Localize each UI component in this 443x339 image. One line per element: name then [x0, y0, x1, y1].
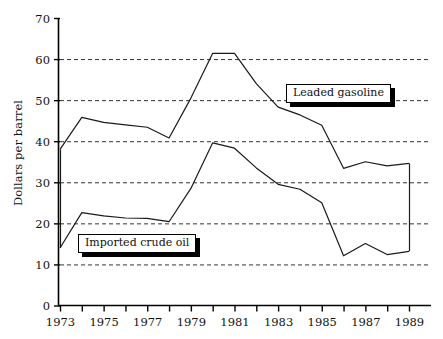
x-tick-label-1973: 1973: [46, 315, 75, 329]
x-tick-label-1985: 1985: [308, 315, 337, 329]
y-tick-label-20: 20: [35, 217, 50, 231]
annotation-leaded-gasoline-label: Leaded gasoline: [286, 84, 391, 103]
y-tick-label-70: 70: [35, 12, 50, 26]
annotation-imported-crude-oil-label: Imported crude oil: [78, 234, 196, 253]
y-tick-label-60: 60: [35, 53, 50, 67]
axes-group: [59, 18, 432, 306]
x-tick-label-1983: 1983: [264, 315, 293, 329]
annotation-imported-crude-oil: Imported crude oil: [78, 234, 196, 253]
y-tick-group: 010203040506070: [35, 12, 60, 314]
y-tick-label-50: 50: [35, 94, 50, 108]
x-tick-label-1979: 1979: [177, 315, 206, 329]
x-tick-label-1975: 1975: [89, 315, 118, 329]
series-line-0: [60, 53, 409, 168]
chart-container: 010203040506070 197319751977197919811983…: [0, 0, 443, 339]
x-tick-label-1987: 1987: [351, 315, 380, 329]
y-tick-label-10: 10: [35, 258, 50, 272]
x-tick-group: 197319751977197919811983198519871989: [46, 306, 424, 329]
x-tick-label-1977: 1977: [133, 315, 162, 329]
y-tick-label-30: 30: [35, 176, 50, 190]
x-tick-label-1981: 1981: [220, 315, 249, 329]
annotation-leaded-gasoline: Leaded gasoline: [286, 84, 391, 103]
y-tick-label-0: 0: [43, 299, 50, 313]
x-tick-label-1989: 1989: [395, 315, 424, 329]
y-tick-label-40: 40: [35, 135, 50, 149]
line-chart-svg: 010203040506070 197319751977197919811983…: [0, 0, 443, 339]
